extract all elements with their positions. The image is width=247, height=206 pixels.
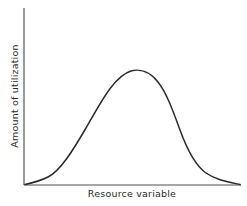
y-axis-label: Amount of utilization <box>9 36 20 156</box>
x-axis-label: Resource variable <box>24 188 240 199</box>
utilization-curve <box>25 70 240 184</box>
chart-plot <box>0 0 247 206</box>
bell-curve-chart: Amount of utilization Resource variable <box>0 0 247 206</box>
